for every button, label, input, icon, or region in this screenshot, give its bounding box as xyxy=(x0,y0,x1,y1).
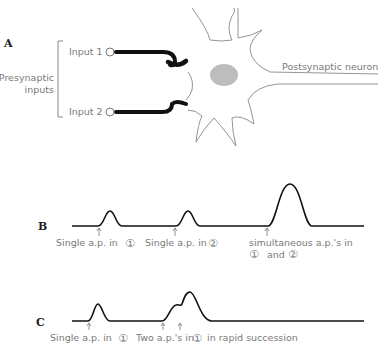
arrow-c3-icon xyxy=(178,323,182,330)
postsynaptic-neuron-label: Postsynaptic neuron xyxy=(282,61,378,72)
caption-c2: Two a.p.'s in xyxy=(135,332,194,343)
presynaptic-bracket xyxy=(58,41,63,117)
neuron-membrane-lower xyxy=(188,84,378,146)
caption-b3-num1: ① xyxy=(249,248,259,261)
presynaptic-label-2: inputs xyxy=(25,84,54,95)
caption-c2-num: ① xyxy=(192,332,202,345)
input-1-label: Input 1 xyxy=(69,46,103,57)
caption-b2-num: ② xyxy=(208,237,218,250)
caption-b1: Single a.p. in xyxy=(56,237,118,248)
panel-a-label: A xyxy=(3,37,13,50)
caption-b1-num: ① xyxy=(125,237,135,250)
arrow-b2-icon xyxy=(173,228,177,236)
arrow-c1-icon xyxy=(87,323,91,330)
caption-b3-line1: simultaneous a.p.'s in xyxy=(249,237,353,248)
trace-b xyxy=(72,184,364,226)
neuron-nucleus xyxy=(210,64,238,86)
trace-c xyxy=(72,292,364,321)
caption-c2-tail: in rapid succession xyxy=(207,332,298,343)
panel-c-label: C xyxy=(36,316,45,329)
input-1-terminal-icon xyxy=(106,48,114,56)
arrow-b3-icon xyxy=(265,228,269,236)
input-1-synapse xyxy=(168,61,186,65)
arrow-c2-icon xyxy=(161,323,165,330)
input-2-terminal-icon xyxy=(106,108,114,116)
neuron-membrane-left xyxy=(186,72,193,100)
panel-b-label: B xyxy=(38,220,47,233)
caption-b2: Single a.p. in xyxy=(145,237,207,248)
caption-c1: Single a.p. in xyxy=(50,332,112,343)
arrow-b1-icon xyxy=(97,228,101,236)
caption-c1-num: ① xyxy=(118,332,128,345)
caption-b3-num2: ② xyxy=(288,248,298,261)
input-2-label: Input 2 xyxy=(69,106,103,117)
diagram: A Presynaptic inputs Input 1 Input 2 Pos… xyxy=(0,0,384,351)
input-2-axon xyxy=(116,102,186,112)
presynaptic-label-1: Presynaptic xyxy=(0,72,54,83)
caption-b3-and: and xyxy=(267,249,285,260)
